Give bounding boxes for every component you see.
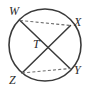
chord-x-z (22, 26, 71, 74)
chord-w-y (20, 21, 70, 69)
point-label-y: Y (74, 63, 82, 77)
point-label-x: X (73, 15, 82, 29)
chord-w-x-dashed (20, 21, 71, 26)
circle-chords-svg: W X Y Z T (0, 0, 94, 92)
point-label-z: Z (9, 73, 16, 87)
chord-z-y-dashed (22, 69, 70, 74)
point-label-w: W (9, 4, 20, 18)
geometry-diagram: W X Y Z T (0, 0, 94, 92)
